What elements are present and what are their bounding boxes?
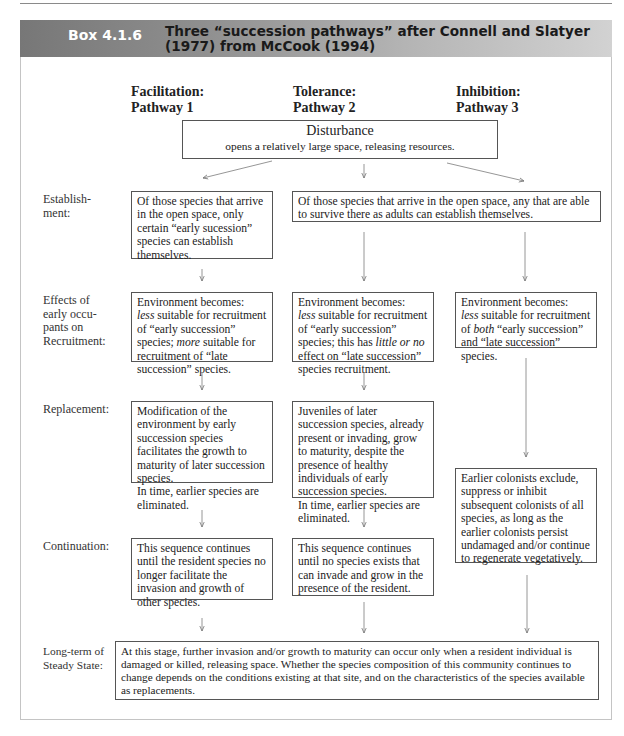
arrow-disturbance-to-p3: [447, 163, 524, 181]
flow-arrows: [0, 0, 624, 736]
arrow-disturbance-to-p1: [203, 161, 272, 178]
